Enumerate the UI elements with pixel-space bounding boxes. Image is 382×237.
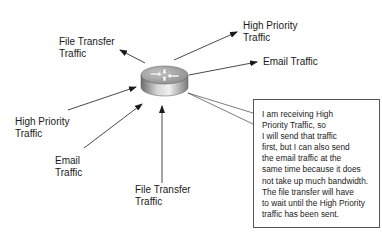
label-email-out: Email Traffic: [263, 56, 318, 68]
label-file-transfer-in: File Transfer Traffic: [135, 184, 191, 208]
label-email-in: Email Traffic: [55, 155, 82, 179]
label-high-priority-out: High Priority Traffic: [243, 20, 297, 44]
label-high-priority-in: High Priority Traffic: [15, 116, 69, 140]
arrow-file-transfer-out: [120, 50, 145, 63]
arrow-email-out: [189, 62, 257, 75]
arrow-high-priority-in: [68, 87, 136, 110]
label-file-transfer-out: File Transfer Traffic: [59, 36, 115, 60]
callout-pointer: [188, 93, 253, 113]
callout-box: I am receiving High Priority Traffic, so…: [253, 99, 380, 228]
arrow-high-priority-out: [174, 32, 237, 60]
router-icon: [141, 66, 188, 96]
arrow-email-in: [84, 104, 142, 148]
callout-pointer: [188, 93, 253, 124]
